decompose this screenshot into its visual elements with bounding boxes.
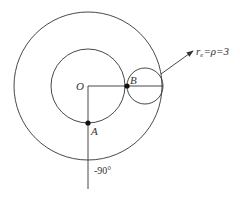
point-b-dot bbox=[124, 83, 129, 88]
label-angle: -90° bbox=[94, 165, 111, 176]
circle-diagram: O B A re=ρ=3 -90° bbox=[0, 0, 240, 207]
label-point-a: A bbox=[90, 125, 98, 137]
label-origin: O bbox=[76, 80, 84, 92]
point-a-dot bbox=[85, 120, 90, 125]
label-point-b: B bbox=[130, 74, 137, 86]
label-radius: re=ρ=3 bbox=[196, 45, 230, 59]
radius-arrow bbox=[161, 51, 193, 74]
